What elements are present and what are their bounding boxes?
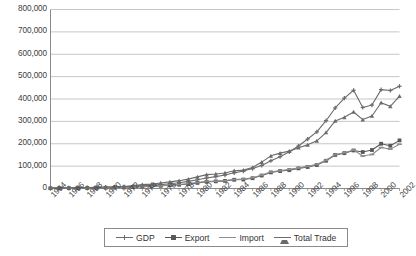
legend-marker-icon xyxy=(116,233,133,243)
legend-item-label: Import xyxy=(239,233,263,243)
x-axis-tick-label: 1978 xyxy=(177,180,196,199)
x-axis-tick-label: 1984 xyxy=(232,180,251,199)
x-axis-tick-label: 1976 xyxy=(159,180,178,199)
legend-marker-icon xyxy=(274,233,291,243)
legend-marker-icon xyxy=(219,233,236,243)
legend-item-label: Export xyxy=(185,233,210,243)
x-axis-tick-label: 1992 xyxy=(306,180,325,199)
x-axis-tick-label: 1964 xyxy=(49,180,68,199)
x-axis-tick-label: 1990 xyxy=(287,180,306,199)
chart-legend: GDPExportImportTotal Trade xyxy=(104,228,348,247)
x-axis-tick-label: 1986 xyxy=(251,180,270,199)
x-axis-tick-label: 1980 xyxy=(195,180,214,199)
x-axis-tick-label: 1974 xyxy=(140,180,159,199)
legend-item-gdp[interactable]: GDP xyxy=(116,233,155,243)
x-axis-tick-label: 1994 xyxy=(324,180,343,199)
x-axis-tick-label: 1988 xyxy=(269,180,288,199)
x-axis-tick-label: 1966 xyxy=(67,180,86,199)
legend-item-export[interactable]: Export xyxy=(165,233,210,243)
legend-marker-icon xyxy=(165,233,182,243)
legend-item-import[interactable]: Import xyxy=(219,233,263,243)
x-axis-tick-label: 1996 xyxy=(342,180,361,199)
x-axis-tick-label: 1970 xyxy=(104,180,123,199)
x-axis-tick-label: 2000 xyxy=(379,180,398,199)
x-axis-tick-label: 1968 xyxy=(85,180,104,199)
legend-item-label: Total Trade xyxy=(294,233,337,243)
x-axis-tick-label: 1972 xyxy=(122,180,141,199)
legend-item-total-trade[interactable]: Total Trade xyxy=(274,233,337,243)
legend-item-label: GDP xyxy=(136,233,155,243)
x-axis-tick-label: 1998 xyxy=(361,180,380,199)
x-axis-tick-label: 2002 xyxy=(398,180,416,199)
x-axis-tick-label: 1982 xyxy=(214,180,233,199)
